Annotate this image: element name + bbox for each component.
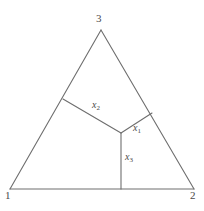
triangle-figure-svg bbox=[0, 0, 204, 211]
branch-label-x1: x1 bbox=[133, 123, 141, 133]
triangle-outline bbox=[10, 30, 194, 189]
branch-label-x2-sub: 2 bbox=[96, 104, 100, 112]
internal-partition bbox=[63, 99, 152, 189]
diagram-canvas: 1 2 3 x1 x2 x3 bbox=[0, 0, 204, 211]
branch-label-x3-sub: 3 bbox=[129, 156, 133, 164]
vertex-label-2: 2 bbox=[190, 190, 196, 201]
vertex-label-3: 3 bbox=[96, 13, 102, 24]
branch-label-x1-sub: 1 bbox=[137, 127, 141, 135]
triangle-left-edge bbox=[10, 30, 101, 189]
branch-label-x2: x2 bbox=[92, 100, 100, 110]
vertex-label-1: 1 bbox=[5, 190, 11, 201]
branch-label-x3: x3 bbox=[125, 152, 133, 162]
triangle-right-edge bbox=[101, 30, 194, 189]
